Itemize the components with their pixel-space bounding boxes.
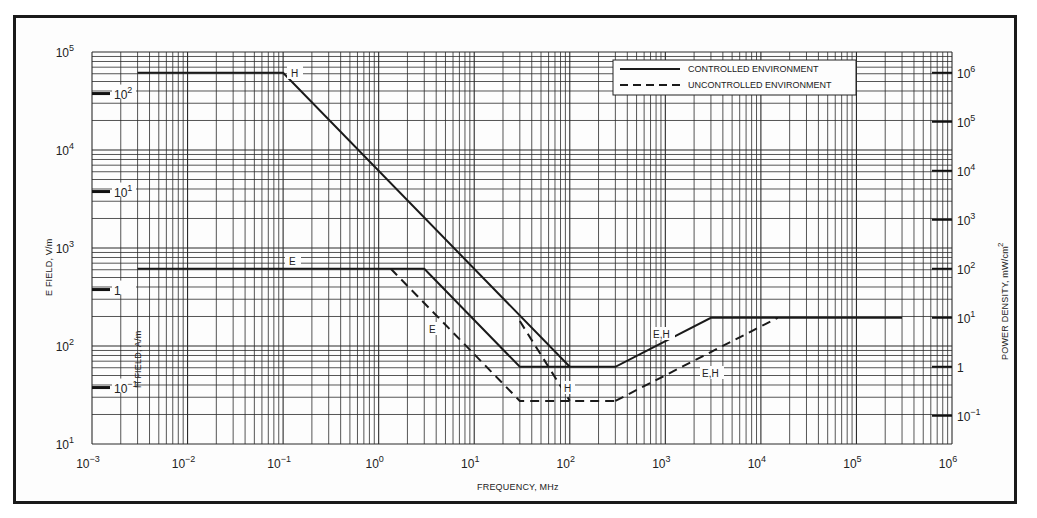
label-uncontrolled-h: H <box>564 383 571 394</box>
power-density-label: POWER DENSITY, mW/cm <box>1000 246 1010 360</box>
y-tick-label-e: 102 <box>56 337 74 354</box>
x-axis-title: FREQUENCY, MHz <box>477 482 559 492</box>
x-tick-label: 100 <box>365 454 383 471</box>
y-tick-label-e: 101 <box>56 435 74 452</box>
y-axis-title-power-density: POWER DENSITY, mW/cm 2 <box>996 242 1010 360</box>
label-uncontrolled-eh: E,H <box>702 368 719 379</box>
y-tick-label-pd: 1 <box>957 361 964 375</box>
y-tick-label-e: 105 <box>56 43 74 60</box>
y-tick-label-h: 101 <box>114 183 132 200</box>
x-tick-label: 10−3 <box>76 454 100 471</box>
y-tick-label-pd: 103 <box>957 211 975 228</box>
y-tick-label-pd: 101 <box>957 309 975 326</box>
label-controlled-h: H <box>291 68 298 79</box>
label-controlled-eh: E,H <box>653 329 670 340</box>
y-tick-label-h: 102 <box>114 85 132 102</box>
legend: CONTROLLED ENVIRONMENT UNCONTROLLED ENVI… <box>613 60 856 95</box>
y-axis-title-h-field: H FIELD, A/m <box>133 331 143 388</box>
x-tick-label: 106 <box>939 454 957 471</box>
x-tick-label: 102 <box>557 454 575 471</box>
y-axis-title-e-field: E FIELD, V/m <box>44 239 54 296</box>
chart: 10−310−210−11001011021031041051061051041… <box>0 0 1037 518</box>
series-controlled-h <box>138 73 570 367</box>
y-tick-label-pd: 106 <box>957 64 975 81</box>
y-tick-label-pd: 102 <box>957 260 975 277</box>
label-controlled-e: E <box>289 256 296 267</box>
x-tick-label: 10−2 <box>172 454 196 471</box>
y-tick-label-pd: 10−1 <box>957 407 981 424</box>
x-tick-label: 103 <box>652 454 670 471</box>
grid <box>92 52 952 444</box>
y-tick-label-pd: 104 <box>957 162 975 179</box>
x-tick-label: 101 <box>461 454 479 471</box>
y-tick-label-e: 104 <box>56 141 74 158</box>
y-tick-label-h: 1 <box>114 284 121 298</box>
legend-uncontrolled-label: UNCONTROLLED ENVIRONMENT <box>688 80 832 90</box>
label-uncontrolled-e: E <box>429 324 436 335</box>
y-tick-label-e: 103 <box>56 239 74 256</box>
series-controlled-e <box>138 269 570 367</box>
power-density-sup: 2 <box>996 242 1005 247</box>
x-tick-label: 104 <box>748 454 766 471</box>
x-tick-label: 10−1 <box>267 454 291 471</box>
series-uncontrolled-e-h <box>615 318 777 401</box>
x-tick-label: 105 <box>843 454 861 471</box>
y-tick-label-pd: 105 <box>957 113 975 130</box>
legend-controlled-label: CONTROLLED ENVIRONMENT <box>688 64 819 74</box>
